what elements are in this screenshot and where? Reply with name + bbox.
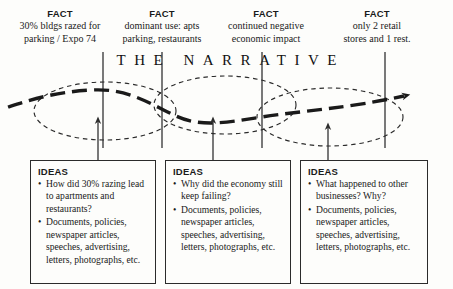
fact-cluster-ellipse-group [34,76,403,146]
narrative-thread-line [8,90,404,123]
ideas-list-item: • What happened to other businesses? Why… [308,178,421,203]
bullet-icon: • [173,178,176,190]
ideas-list-3: • What happened to other businesses? Why… [308,178,421,254]
ideas-list-1: • How did 30% razing lead to apartments … [38,178,149,266]
ideas-item-text: What happened to other businesses? Why? [316,178,408,201]
bullet-icon: • [173,204,176,216]
ideas-list-item: • Documents, policies, newspaper article… [38,216,149,266]
ideas-label-3: IDEAS [308,166,421,177]
ideas-box-3: IDEAS • What happened to other businesse… [300,160,428,284]
ideas-list-2: • Why did the economy still keep failing… [173,178,284,254]
ideas-item-text: Documents, policies, newspaper articles,… [46,216,140,264]
ideas-connector-group [98,122,328,160]
ideas-list-item: • Why did the economy still keep failing… [173,178,284,203]
fact-cluster-ellipse-3 [257,88,403,146]
ideas-box-1: IDEAS • How did 30% razing lead to apart… [30,160,156,284]
ideas-item-text: Documents, policies, newspaper articles,… [316,204,410,252]
bullet-icon: • [38,216,41,228]
bullet-icon: • [308,178,311,190]
bullet-icon: • [38,178,41,190]
ideas-list-item: • How did 30% razing lead to apartments … [38,178,149,215]
ideas-item-text: Documents, policies, newspaper articles,… [181,204,275,252]
ideas-item-text: How did 30% razing lead to apartments an… [46,178,144,214]
fact-cluster-ellipse-2 [154,76,296,134]
ideas-label-2: IDEAS [173,166,284,177]
narrative-diagram-page: FACT 30% bldgs razed for parking / Expo … [0,0,453,289]
ideas-item-text: Why did the economy still keep failing? [181,178,283,201]
ideas-box-2: IDEAS • Why did the economy still keep f… [165,160,291,284]
page-title: THE NARRATIVE [0,52,453,69]
bullet-icon: • [308,204,311,216]
ideas-label-1: IDEAS [38,166,149,177]
ideas-list-item: • Documents, policies, newspaper article… [308,204,421,254]
ideas-list-item: • Documents, policies, newspaper article… [173,204,284,254]
